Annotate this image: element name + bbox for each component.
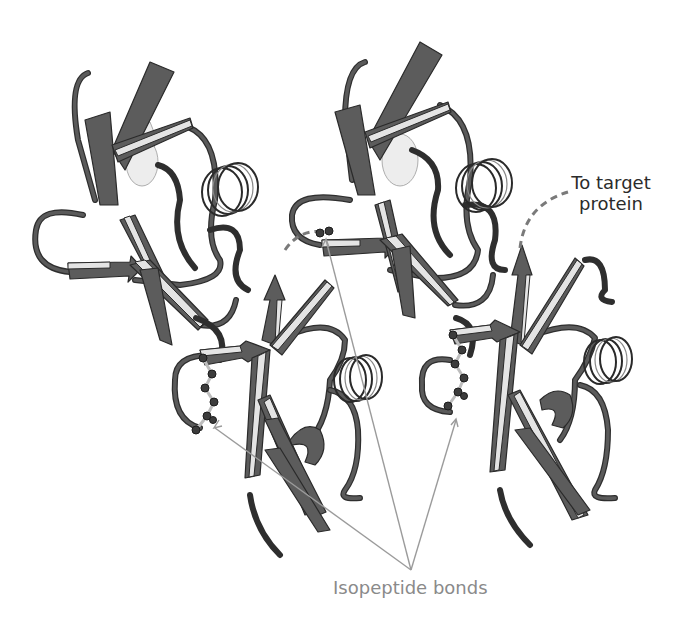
ubiquitin-subunit-2 — [292, 42, 512, 318]
target-label-line-2: protein — [566, 193, 656, 214]
isopeptide-bond-1 — [192, 354, 218, 434]
isopeptide-bonds-label: Isopeptide bonds — [333, 577, 488, 598]
ubiquitin-subunit-1 — [35, 62, 258, 345]
target-connector-dashed-line — [520, 192, 568, 248]
ubiquitin-chain-diagram — [0, 0, 694, 627]
helix-4 — [584, 337, 632, 384]
target-protein-label: To target protein — [566, 172, 656, 214]
target-label-line-1: To target — [566, 172, 656, 193]
ubiquitin-subunit-4 — [422, 245, 632, 545]
